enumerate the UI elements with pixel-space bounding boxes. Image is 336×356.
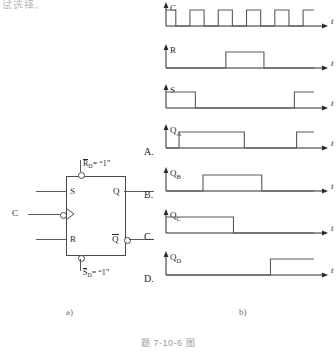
waveform-row: C.QCt [140,211,336,241]
rd-wire [80,160,81,172]
c-input-wire [28,214,62,215]
figure-caption: 题 7-10-6 图 [0,336,336,349]
waveform-plot [140,169,322,199]
waveform-panel: CtRtStA.QAtB.QBtC.QCtD.QDt [140,0,336,300]
c-edge-trigger-icon [66,208,75,220]
s-pin-label: S [70,187,75,196]
y-axis-arrowhead [164,84,169,90]
time-axis-label: t [331,224,334,233]
s-input-wire [36,191,66,192]
waveform-row: Ct [140,4,336,34]
sd-wire [80,259,81,271]
x-axis-arrowhead [322,231,328,236]
x-axis-arrowhead [322,146,328,151]
signal-trace [166,132,314,148]
qbar-pin-label: Q [112,234,119,244]
q-pin-label: Q [113,187,120,196]
time-axis-label: t [331,17,334,26]
waveform-row: Rt [140,46,336,76]
signal-trace [166,10,314,26]
signal-trace [166,52,314,68]
subcaption-a: a) [66,308,73,317]
y-axis-arrowhead [164,209,169,215]
y-axis-arrowhead [164,2,169,8]
waveform-row: A.QAt [140,126,336,156]
waveform-row: B.QBt [140,169,336,199]
waveform-plot [140,211,322,241]
rd-bubble-icon [78,172,85,179]
sd-value: = “1” [92,268,110,277]
x-axis-arrowhead [322,24,328,29]
time-axis-label: t [331,139,334,148]
time-axis-label: t [331,99,334,108]
rd-subscript: D [88,163,92,169]
time-axis-label: t [331,266,334,275]
r-input-wire [36,239,66,240]
waveform-plot [140,253,322,283]
subcaption-b: b) [239,308,247,317]
waveform-plot [140,86,322,116]
waveform-plot [140,126,322,156]
cropped-text-strip: 试选择。 [2,0,122,9]
figure-root: 试选择。 RD= “1” SD= “1” S C R Q [0,0,336,356]
signal-trace [166,217,314,233]
x-axis-arrowhead [322,106,328,111]
qbar-inversion-bubble-icon [124,237,131,244]
signal-trace [166,92,314,108]
x-axis-arrowhead [322,66,328,71]
signal-trace [166,175,314,191]
sd-subscript: D [87,272,91,278]
x-axis-arrowhead [322,273,328,278]
waveform-plot [140,4,322,34]
waveform-row: St [140,86,336,116]
y-axis-arrowhead [164,124,169,130]
y-axis-arrowhead [164,167,169,173]
sd-label: SD= “1” [83,268,109,277]
waveform-row: D.QDt [140,253,336,283]
r-pin-label: R [70,235,76,244]
c-pin-label: C [12,209,18,218]
rd-label: RD= “1” [83,159,110,168]
time-axis-label: t [331,182,334,191]
y-axis-arrowhead [164,44,169,50]
signal-trace [166,259,314,275]
x-axis-arrowhead [322,189,328,194]
y-axis-arrowhead [164,251,169,257]
rd-value: = “1” [93,159,111,168]
time-axis-label: t [331,59,334,68]
waveform-plot [140,46,322,76]
